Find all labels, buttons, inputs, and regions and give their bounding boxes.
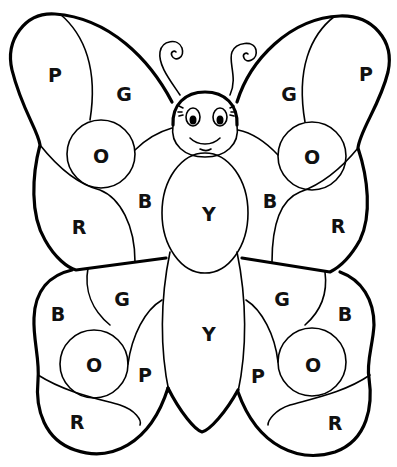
- smile: [190, 138, 220, 144]
- abdomen-tail: [168, 388, 238, 432]
- label-lower-left-circle: O: [86, 356, 102, 375]
- upper-left-wing-outline: [11, 14, 172, 270]
- label-upper-right-outer: P: [359, 65, 373, 84]
- label-abdomen: Y: [202, 325, 216, 344]
- label-lower-left-top: G: [114, 290, 130, 309]
- ul-divider-inner: [135, 128, 172, 150]
- label-thorax: Y: [202, 205, 216, 224]
- label-lower-left-inner: P: [138, 366, 152, 385]
- label-lower-right-lower: R: [328, 414, 343, 433]
- abdomen-outline: [162, 252, 170, 392]
- label-lower-right-inner: P: [251, 367, 265, 386]
- label-upper-left-inner: B: [138, 192, 152, 211]
- ll-divider-inner: [128, 300, 162, 364]
- upper-right-wing-outline: [237, 16, 389, 272]
- ul-divider-lower: [40, 145, 135, 262]
- ll-divider-top: [87, 268, 110, 325]
- lr-divider-inner: [246, 300, 278, 362]
- label-lower-right-outer: B: [338, 305, 352, 324]
- label-upper-right-lower: R: [331, 217, 346, 236]
- label-upper-right-top: G: [281, 85, 297, 104]
- lr-divider-lower: [268, 375, 370, 425]
- chin-line: [200, 149, 211, 151]
- lr-divider-top: [305, 272, 326, 325]
- ul-divider-outer: [60, 14, 92, 120]
- right-pupil: [217, 116, 224, 125]
- label-upper-left-outer: P: [48, 66, 62, 85]
- left-pupil: [190, 116, 197, 125]
- label-upper-right-circle: O: [304, 148, 320, 167]
- label-upper-right-inner: B: [263, 192, 277, 211]
- ur-divider-inner: [238, 130, 278, 155]
- ur-divider-outer: [302, 16, 335, 122]
- label-upper-left-top: G: [116, 85, 132, 104]
- label-upper-left-circle: O: [93, 147, 109, 166]
- label-upper-left-lower: R: [72, 218, 87, 237]
- ll-divider-lower: [38, 375, 140, 425]
- label-lower-left-lower: R: [70, 413, 85, 432]
- label-lower-left-outer: B: [51, 305, 65, 324]
- left-lashes: [178, 106, 183, 116]
- label-lower-right-top: G: [274, 290, 290, 309]
- label-lower-right-circle: O: [305, 356, 321, 375]
- abdomen-outline-right: [237, 252, 245, 392]
